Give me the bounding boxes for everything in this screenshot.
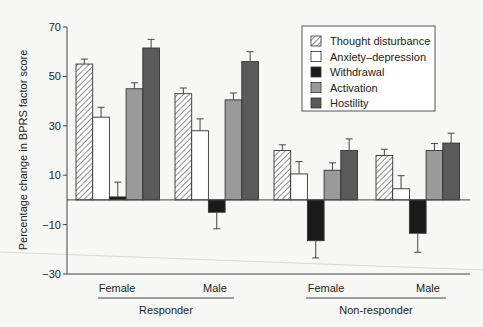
scan-artifact-line xyxy=(0,252,483,270)
category-label: Female xyxy=(308,282,345,294)
group-label: Responder xyxy=(139,304,193,316)
category-label: Male xyxy=(416,282,440,294)
bar-activation xyxy=(324,170,341,200)
bar-withdrawal xyxy=(409,200,426,233)
legend-label: Activation xyxy=(330,82,378,94)
category-label: Male xyxy=(203,282,227,294)
bar-activation xyxy=(225,100,242,200)
bar-anxiety-depression xyxy=(93,117,110,200)
bar-activation xyxy=(426,151,443,200)
legend: Thought disturbanceAnxiety–depressionWit… xyxy=(302,26,435,111)
y-tick-label: −30 xyxy=(42,268,61,280)
y-tick-label: 50 xyxy=(49,70,61,82)
legend-label: Withdrawal xyxy=(330,66,384,78)
bar-thought-disturbance xyxy=(175,94,192,200)
bar-thought-disturbance xyxy=(274,151,291,200)
bar-activation xyxy=(126,89,143,200)
bar-hostility xyxy=(242,62,259,200)
bar-thought-disturbance xyxy=(76,64,93,200)
legend-label: Anxiety–depression xyxy=(330,51,426,63)
group-label: Non-responder xyxy=(339,304,413,316)
bar-hostility xyxy=(341,151,358,200)
bar-anxiety-depression xyxy=(291,174,308,200)
legend-swatch xyxy=(311,36,321,46)
bar-withdrawal xyxy=(208,200,225,212)
y-axis: 70503010−10−30 xyxy=(42,21,67,280)
y-axis-title: Percentage change in BPRS factor score xyxy=(17,50,29,251)
legend-label: Hostility xyxy=(330,97,369,109)
bar-anxiety-depression xyxy=(393,189,410,200)
category-label: Female xyxy=(99,282,136,294)
legend-label: Thought disturbance xyxy=(330,35,430,47)
legend-swatch xyxy=(311,83,321,93)
x-axis-labels: FemaleMaleFemaleMaleResponderNon-respond… xyxy=(98,282,446,316)
y-tick-label: −10 xyxy=(42,219,61,231)
y-tick-label: 10 xyxy=(49,169,61,181)
bar-chart: 70503010−10−30 Percentage change in BPRS… xyxy=(0,0,483,327)
bar-withdrawal xyxy=(307,200,324,241)
y-tick-label: 30 xyxy=(49,120,61,132)
legend-swatch xyxy=(311,67,321,77)
bar-thought-disturbance xyxy=(376,155,393,199)
bar-hostility xyxy=(443,143,460,200)
legend-swatch xyxy=(311,52,321,62)
legend-swatch xyxy=(311,98,321,108)
bar-hostility xyxy=(143,48,160,200)
bar-anxiety-depression xyxy=(192,131,209,200)
y-tick-label: 70 xyxy=(49,21,61,33)
